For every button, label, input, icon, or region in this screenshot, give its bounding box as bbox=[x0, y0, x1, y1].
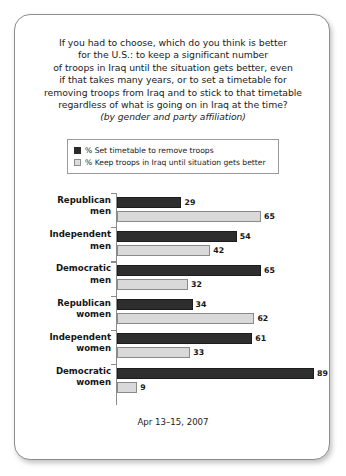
legend-label-timetable: % Set timetable to remove troops bbox=[85, 146, 214, 155]
bar-timetable bbox=[117, 231, 236, 242]
bar bbox=[117, 347, 190, 358]
bar-value-label: 89 bbox=[317, 369, 328, 378]
bar-chart: Republicanmen2965Independentmen5442Democ… bbox=[27, 193, 319, 405]
bar-timetable bbox=[117, 368, 314, 379]
title-line-5: removing troops from Iraq and to stick t… bbox=[25, 87, 321, 99]
axis-tick bbox=[111, 261, 117, 262]
bar-group-label-line: Independent bbox=[27, 229, 111, 240]
bar-value-label: 42 bbox=[213, 246, 224, 255]
bar-value-label: 9 bbox=[140, 383, 145, 392]
bar bbox=[117, 333, 252, 344]
bar-group-label-line: men bbox=[27, 206, 111, 217]
title-line-3: of troops in Iraq until the situation ge… bbox=[25, 62, 321, 74]
bar-group-label-line: women bbox=[27, 309, 111, 320]
chart-card: If you had to choose, which do you think… bbox=[14, 14, 330, 460]
bar-group-label: Democraticwomen bbox=[27, 366, 111, 389]
legend-item-keep-troops: % Keep troops in Iraq until situation ge… bbox=[74, 157, 272, 168]
chart-legend: % Set timetable to remove troops % Keep … bbox=[67, 139, 279, 174]
legend-item-timetable: % Set timetable to remove troops bbox=[74, 145, 272, 156]
bar-group: Republicanwomen3462 bbox=[27, 296, 319, 330]
chart-title: If you had to choose, which do you think… bbox=[25, 37, 321, 124]
bar-group-label: Independentmen bbox=[27, 229, 111, 252]
bar-group-label-line: women bbox=[27, 377, 111, 388]
bar-timetable bbox=[117, 197, 181, 208]
bar-group: Independentmen5442 bbox=[27, 227, 319, 261]
bar bbox=[117, 313, 254, 324]
bar bbox=[117, 211, 261, 222]
bar-group-label: Independentwomen bbox=[27, 332, 111, 355]
bar bbox=[117, 299, 192, 310]
title-line-6: regardless of what is going on in Iraq a… bbox=[25, 99, 321, 111]
title-line-2: for the U.S.: to keep a significant numb… bbox=[25, 49, 321, 61]
bar-value-label: 54 bbox=[240, 232, 251, 241]
bar-value-label: 34 bbox=[196, 300, 207, 309]
legend-swatch-dark-icon bbox=[74, 147, 81, 154]
bar-timetable bbox=[117, 265, 261, 276]
legend-label-keep-troops: % Keep troops in Iraq until situation ge… bbox=[85, 158, 266, 167]
bar-group: Independentwomen6133 bbox=[27, 330, 319, 364]
axis-tick bbox=[111, 193, 117, 194]
bar bbox=[117, 245, 210, 256]
poll-chart-page: If you had to choose, which do you think… bbox=[0, 0, 346, 476]
bar-value-label: 65 bbox=[264, 212, 275, 221]
bar-group-label: Republicanwomen bbox=[27, 298, 111, 321]
axis-tick bbox=[111, 330, 117, 331]
bar bbox=[117, 231, 236, 242]
bar-group-label-line: Democratic bbox=[27, 366, 111, 377]
bar-group-label: Republicanmen bbox=[27, 195, 111, 218]
legend-swatch-light-icon bbox=[74, 159, 81, 166]
chart-subtitle: (by gender and party affiliation) bbox=[25, 111, 321, 123]
bar-group-label-line: Republican bbox=[27, 195, 111, 206]
bar-group-label-line: women bbox=[27, 343, 111, 354]
title-line-4: if that takes many years, or to set a ti… bbox=[25, 74, 321, 86]
bar-value-label: 65 bbox=[264, 266, 275, 275]
bar-keep-troops bbox=[117, 313, 254, 324]
bar-keep-troops bbox=[117, 245, 210, 256]
bar-value-label: 32 bbox=[191, 280, 202, 289]
bar-value-label: 61 bbox=[255, 334, 266, 343]
bar-timetable bbox=[117, 299, 192, 310]
bar-group-label-line: Independent bbox=[27, 332, 111, 343]
axis-tick bbox=[111, 227, 117, 228]
bar-group: Democraticwomen899 bbox=[27, 364, 319, 398]
bar bbox=[117, 265, 261, 276]
bar-group: Democraticmen6532 bbox=[27, 261, 319, 295]
bar bbox=[117, 368, 314, 379]
bar-keep-troops bbox=[117, 279, 188, 290]
bar-group-label-line: men bbox=[27, 275, 111, 286]
bar-timetable bbox=[117, 333, 252, 344]
bar-group-label-line: Democratic bbox=[27, 263, 111, 274]
bar-group: Republicanmen2965 bbox=[27, 193, 319, 227]
bar bbox=[117, 197, 181, 208]
bar-group-label-line: men bbox=[27, 241, 111, 252]
bar-keep-troops bbox=[117, 382, 137, 393]
axis-tick bbox=[111, 364, 117, 365]
bar bbox=[117, 279, 188, 290]
bar-group-label-line: Republican bbox=[27, 298, 111, 309]
bar-group-label: Democraticmen bbox=[27, 263, 111, 286]
title-line-1: If you had to choose, which do you think… bbox=[25, 37, 321, 49]
axis-tick bbox=[111, 296, 117, 297]
bar-keep-troops bbox=[117, 211, 261, 222]
bar-value-label: 29 bbox=[184, 198, 195, 207]
bar-value-label: 33 bbox=[193, 348, 204, 357]
bar bbox=[117, 382, 137, 393]
bar-value-label: 62 bbox=[257, 314, 268, 323]
bar-keep-troops bbox=[117, 347, 190, 358]
chart-footer-date: Apr 13–15, 2007 bbox=[25, 417, 321, 427]
